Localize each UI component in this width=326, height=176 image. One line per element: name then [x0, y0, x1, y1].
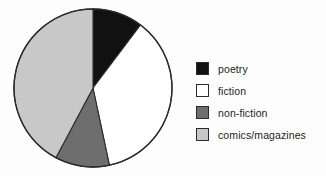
- pie-svg: [12, 5, 176, 173]
- legend-item-fiction[interactable]: fiction: [196, 80, 322, 101]
- pie-chart-plot-area: [12, 5, 176, 173]
- legend-label-comics-magazines: comics/magazines: [218, 129, 306, 141]
- chart-legend: poetry fiction non-fiction comics/magazi…: [196, 58, 322, 146]
- legend-swatch-fiction: [196, 84, 209, 97]
- legend-item-non-fiction[interactable]: non-fiction: [196, 102, 322, 123]
- legend-item-comics-magazines[interactable]: comics/magazines: [196, 124, 322, 145]
- legend-swatch-non-fiction: [196, 106, 209, 119]
- legend-label-poetry: poetry: [218, 63, 248, 75]
- legend-label-non-fiction: non-fiction: [218, 107, 268, 119]
- legend-swatch-poetry: [196, 62, 209, 75]
- pie-chart-figure: poetry fiction non-fiction comics/magazi…: [0, 0, 326, 176]
- legend-label-fiction: fiction: [218, 85, 246, 97]
- legend-item-poetry[interactable]: poetry: [196, 58, 322, 79]
- legend-swatch-comics-magazines: [196, 128, 209, 141]
- pie-slice-group: [14, 9, 172, 167]
